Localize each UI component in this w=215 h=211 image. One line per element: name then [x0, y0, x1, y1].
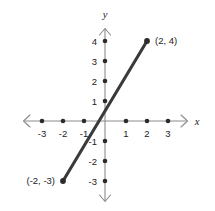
y-tick-label-neg1: -1	[89, 136, 97, 147]
point-label-upper: (2, 4)	[155, 35, 177, 46]
x-axis-tick-labels: -3 -2 -1 1 2 3	[38, 128, 171, 139]
y-tick-label-neg3: -3	[89, 176, 97, 187]
y-tick-label-3: 3	[92, 56, 97, 67]
y-tick-dot-1	[103, 99, 108, 104]
y-tick-label-neg2: -2	[89, 156, 97, 167]
y-tick-dot-neg1	[103, 139, 108, 144]
x-tick-label-1: 1	[123, 128, 128, 139]
x-tick-label-neg2: -2	[59, 128, 67, 139]
x-tick-label-neg1: -1	[80, 128, 88, 139]
y-axis-name-label: y	[102, 9, 108, 20]
x-axis-name-label: x	[194, 116, 200, 127]
x-tick-dot-2	[145, 119, 150, 124]
y-tick-label-2: 2	[92, 76, 97, 87]
x-tick-label-2: 2	[144, 128, 149, 139]
coordinate-plane-figure: -3 -2 -1 1 2 3 4 3 2 1 -1 -2 -3 y x (2, …	[0, 0, 215, 211]
point-label-lower: (-2, -3)	[27, 175, 56, 186]
plot-svg: -3 -2 -1 1 2 3 4 3 2 1 -1 -2 -3 y x (2, …	[0, 0, 215, 211]
endpoint-dot-lower	[60, 178, 66, 184]
y-tick-dot-3	[103, 59, 108, 64]
x-tick-dot-neg3	[40, 119, 45, 124]
x-tick-label-neg3: -3	[38, 128, 46, 139]
x-tick-dot-neg2	[61, 119, 66, 124]
x-tick-dot-1	[124, 119, 129, 124]
y-tick-dot-neg3	[103, 179, 108, 184]
x-tick-label-3: 3	[165, 128, 170, 139]
y-tick-dot-neg2	[103, 159, 108, 164]
x-tick-dot-neg1	[82, 119, 87, 124]
y-tick-label-1: 1	[92, 96, 97, 107]
y-tick-dot-4	[103, 39, 108, 44]
y-tick-dot-2	[103, 79, 108, 84]
endpoint-dot-upper	[144, 38, 150, 44]
y-axis-tick-labels: 4 3 2 1 -1 -2 -3	[89, 36, 97, 187]
y-tick-label-4: 4	[92, 36, 97, 47]
x-tick-dot-3	[166, 119, 171, 124]
